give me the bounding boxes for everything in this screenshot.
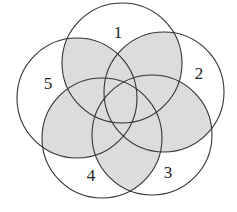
- circle-label-2: 2: [195, 64, 204, 83]
- circle-label-3: 3: [164, 163, 173, 182]
- circle-label-4: 4: [87, 166, 96, 185]
- venn-diagram: 12345: [0, 0, 237, 212]
- circle-label-5: 5: [44, 74, 53, 93]
- circle-label-1: 1: [114, 23, 123, 42]
